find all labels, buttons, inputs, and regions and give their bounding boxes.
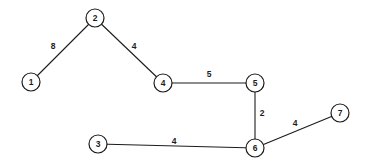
edge-3-6 (98, 144, 255, 148)
edge-2-4 (95, 18, 163, 83)
graph-figure: 8452441234567 (0, 0, 366, 168)
node-3-label: 3 (96, 139, 101, 149)
edge-2-4-weight: 4 (132, 41, 137, 51)
edge-3-6-weight: 4 (172, 136, 177, 146)
edge-4-5-weight: 5 (207, 69, 212, 79)
graph-canvas: 8452441234567 (0, 0, 366, 168)
edge-6-7 (255, 113, 340, 148)
node-7-label: 7 (338, 108, 343, 118)
node-1-label: 1 (29, 77, 34, 87)
edge-5-6-weight: 2 (260, 108, 265, 118)
edge-1-2 (31, 18, 95, 82)
node-4-label: 4 (161, 78, 166, 88)
edge-1-2-weight: 8 (51, 41, 56, 51)
node-5-label: 5 (253, 78, 258, 88)
node-2-label: 2 (93, 13, 98, 23)
edge-6-7-weight: 4 (293, 118, 298, 128)
node-6-label: 6 (253, 143, 258, 153)
